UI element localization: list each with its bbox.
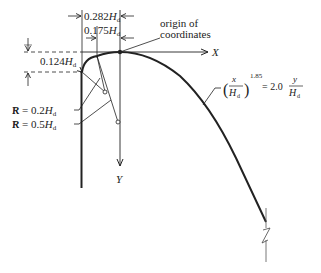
radius-small-leader [74, 78, 100, 110]
center-large-radius [116, 120, 120, 124]
svg-text:): ) [244, 81, 249, 99]
svg-text:H: H [288, 87, 297, 98]
radius-large-leader [74, 100, 111, 124]
svg-text:d: d [297, 93, 300, 99]
center-small-radius [103, 90, 107, 94]
x-axis-label: X [211, 46, 220, 58]
svg-text:x: x [231, 74, 236, 84]
svg-text:d: d [237, 93, 240, 99]
radius-large-label: RR = 0.5Hd [11, 118, 56, 132]
y-axis-label: Y [116, 173, 124, 185]
svg-text:1.85: 1.85 [250, 72, 263, 80]
origin-leader [120, 38, 160, 52]
svg-text:(: ( [223, 81, 228, 99]
equation-leader [203, 88, 221, 105]
origin-label: origin of coordinates [160, 17, 211, 40]
dim-0124-label: 0.124Hd [40, 55, 77, 69]
spillway-crest-diagram: Y X 0.282Hd 0.175Hd 0.124Hd origin of co… [0, 0, 321, 273]
profile-equation: ( x H d ) 1.85 = 2.0 y H d [223, 72, 303, 99]
radius-large-line [97, 56, 118, 122]
svg-text:= 2.0: = 2.0 [262, 81, 283, 92]
dim-0282-label: 0.282Hd [84, 10, 121, 24]
dim-0175-label: 0.175Hd [84, 24, 121, 38]
svg-text:H: H [228, 87, 237, 98]
radius-small-label: RR = 0.2Hd [11, 104, 56, 118]
crest-profile-curve [82, 52, 266, 222]
svg-text:y: y [292, 74, 297, 84]
